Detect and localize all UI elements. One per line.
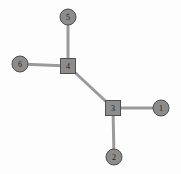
graph-diagram: 123456	[0, 0, 181, 174]
node-shape-square[interactable]	[106, 101, 121, 116]
node-shape-circle[interactable]	[106, 149, 122, 165]
node-shape-circle[interactable]	[12, 56, 28, 72]
graph-node-5[interactable]: 5	[60, 9, 76, 25]
graph-node-2[interactable]: 2	[106, 149, 122, 165]
node-shape-square[interactable]	[61, 59, 76, 74]
graph-canvas: 123456	[0, 0, 181, 174]
node-shape-circle[interactable]	[153, 100, 169, 116]
graph-node-4[interactable]: 4	[61, 59, 76, 74]
graph-node-6[interactable]: 6	[12, 56, 28, 72]
node-shape-circle[interactable]	[60, 9, 76, 25]
graph-node-1[interactable]: 1	[153, 100, 169, 116]
edge-layer	[20, 17, 161, 157]
graph-node-3[interactable]: 3	[106, 101, 121, 116]
